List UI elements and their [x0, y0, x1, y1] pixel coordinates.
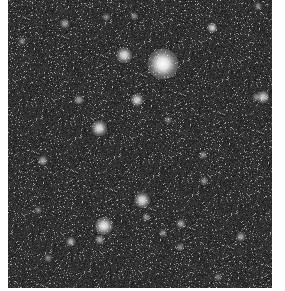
- star: [252, 93, 260, 101]
- star: [102, 13, 110, 21]
- star: [34, 206, 42, 214]
- star: [18, 37, 26, 45]
- star: [164, 116, 172, 124]
- star: [200, 177, 208, 185]
- star: [176, 243, 184, 251]
- star: [116, 47, 132, 63]
- star: [134, 192, 150, 208]
- star: [254, 2, 262, 10]
- star: [44, 254, 52, 262]
- star: [130, 12, 138, 20]
- star-field-image: [8, 0, 272, 288]
- star: [142, 213, 150, 221]
- star: [209, 24, 217, 32]
- star: [199, 151, 207, 159]
- star: [131, 94, 144, 107]
- star: [91, 120, 107, 136]
- noise-texture: [8, 0, 272, 288]
- star: [214, 273, 222, 281]
- star: [159, 229, 167, 237]
